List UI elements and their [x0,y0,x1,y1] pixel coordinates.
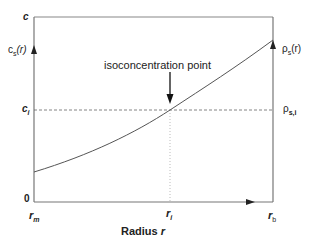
y-axis-right-title: ρs(r) [282,44,301,56]
y-axis-left-arrow-icon [31,45,37,54]
y-zero-label: 0 [24,194,30,204]
y-axis-left-title: cs(r) [8,45,27,57]
x-axis-title: Radius r [121,226,165,237]
y-max-label: c [23,12,29,22]
rho-si-label: ρs,i [283,104,297,116]
rm-label: rm [29,210,40,223]
ri-label: ri [166,208,172,221]
rb-label: rb [268,210,276,223]
chart-canvas [0,0,318,244]
annotation-arrow-icon [167,94,174,104]
isoconcentration-annotation: isoconcentration point [104,60,211,71]
x-axis-arrow-icon [246,199,255,205]
ci-label: ci [22,104,30,116]
